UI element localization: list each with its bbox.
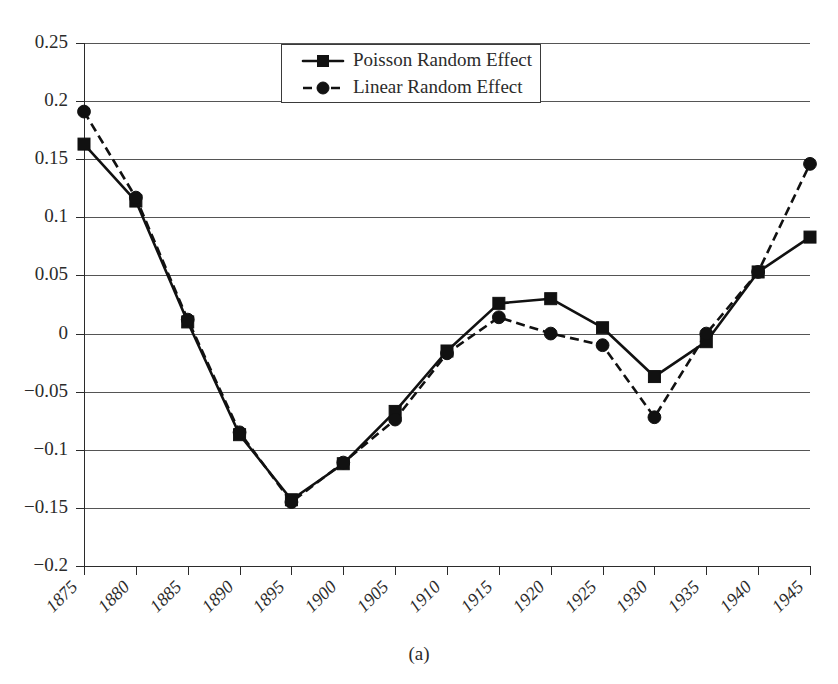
data-point-marker [337,456,350,469]
x-axis-tick-label: 1885 [146,577,186,617]
series-layer [78,105,817,508]
x-axis-labels-group: 1875188018851890189519001905191019151920… [42,577,808,617]
legend-marker-square [318,56,329,67]
data-point-marker [752,266,765,279]
y-axis-tick-label: 0.1 [44,205,68,226]
legend-label-1: Poisson Random Effect [353,49,533,70]
data-point-marker [441,347,454,360]
x-axis-tick-label: 1895 [249,577,289,617]
data-point-marker [492,311,505,324]
x-axis-tick-label: 1875 [42,577,82,617]
data-point-marker [700,327,713,340]
data-point-marker [597,322,609,334]
x-axis-tick-label: 1905 [353,577,393,617]
x-axis-ticks-group [85,566,811,575]
data-point-marker [545,293,557,305]
data-point-marker [181,313,194,326]
y-axis-tick-label: −0.1 [34,438,68,459]
x-axis-tick-label: 1930 [612,577,652,617]
y-axis-tick-label: 0 [59,322,69,343]
x-axis-tick-label: 1890 [198,577,238,617]
y-axis-tick-label: 0.05 [35,263,68,284]
data-point-marker [544,327,557,340]
figure-caption: (a) [408,643,429,665]
data-point-marker [493,297,505,309]
data-point-marker [804,231,816,243]
data-point-marker [804,157,817,170]
x-axis-tick-label: 1900 [301,577,341,617]
x-axis-tick-label: 1935 [664,577,704,617]
data-point-marker [285,496,298,509]
x-axis-tick-label: 1920 [509,577,549,617]
y-axis-tick-label: 0.25 [35,31,68,52]
x-axis-tick-label: 1925 [561,577,601,617]
x-axis-tick-label: 1945 [768,577,808,617]
data-point-marker [596,339,609,352]
y-axis-tick-label: 0.15 [35,147,68,168]
data-point-marker [78,105,91,118]
x-axis-tick-label: 1940 [716,577,756,617]
line-chart: 0.250.20.150.10.050−0.05−0.1−0.15−0.2 18… [0,0,838,684]
gridlines-group [84,43,810,567]
data-point-marker [233,426,246,439]
y-axis-tick-label: 0.2 [44,89,68,110]
data-point-marker [129,191,142,204]
x-axis-tick-label: 1880 [94,577,134,617]
legend-label-2: Linear Random Effect [353,76,523,97]
y-axis-tick-label: −0.05 [24,380,68,401]
x-axis-tick-label: 1910 [405,577,445,617]
y-axis-tick-label: −0.15 [24,496,68,517]
data-point-marker [78,138,90,150]
y-axis-tick-label: −0.2 [34,554,68,575]
x-axis-tick-label: 1915 [457,577,497,617]
figure-panel: 0.250.20.150.10.050−0.05−0.1−0.15−0.2 18… [0,0,838,684]
chart-legend: Poisson Random EffectLinear Random Effec… [282,45,541,103]
data-point-marker [648,411,661,424]
data-point-marker [389,413,402,426]
data-point-marker [648,371,660,383]
legend-marker-circle [317,82,329,94]
y-axis-ticks-group [76,44,84,567]
y-axis-labels-group: 0.250.20.150.10.050−0.05−0.1−0.15−0.2 [24,31,68,575]
series-line-2 [84,112,810,503]
